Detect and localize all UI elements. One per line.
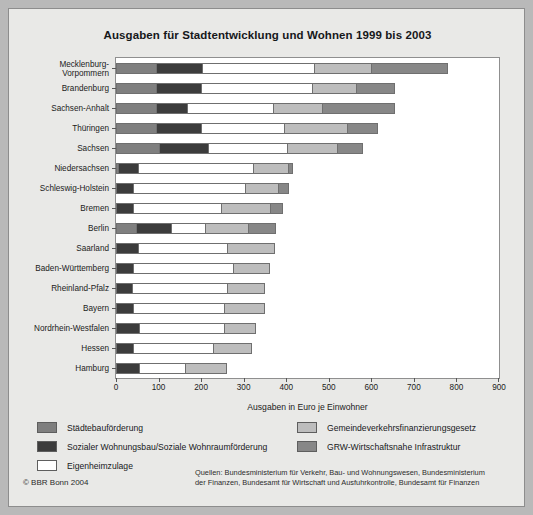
bar-segment[interactable]	[118, 163, 138, 174]
bar-segment[interactable]	[245, 183, 278, 194]
bar-row[interactable]: Brandenburg	[116, 83, 499, 94]
stacked-bar[interactable]	[116, 363, 227, 374]
bar-segment[interactable]	[132, 283, 227, 294]
bar-row[interactable]: Nordrhein-Westfalen	[116, 323, 499, 334]
bar-row[interactable]: Bayern	[116, 303, 499, 314]
stacked-bar[interactable]	[116, 123, 378, 134]
bar-segment[interactable]	[133, 263, 234, 274]
stacked-bar[interactable]	[116, 103, 395, 114]
bar-segment[interactable]	[116, 183, 133, 194]
bar-segment[interactable]	[116, 283, 132, 294]
bar-row[interactable]: Hessen	[116, 343, 499, 354]
legend-item[interactable]: Eigenheimzulage	[37, 460, 133, 471]
stacked-bar[interactable]	[116, 143, 363, 154]
bar-segment[interactable]	[133, 203, 220, 214]
bar-segment[interactable]	[116, 243, 138, 254]
bar-segment[interactable]	[156, 103, 187, 114]
bar-segment[interactable]	[116, 363, 139, 374]
bar-segment[interactable]	[337, 143, 363, 154]
bar-segment[interactable]	[139, 323, 224, 334]
bar-row[interactable]: Bremen	[116, 203, 499, 214]
bar-row[interactable]: Niedersachsen	[116, 163, 499, 174]
bar-segment[interactable]	[156, 63, 202, 74]
bar-segment[interactable]	[347, 123, 377, 134]
bar-segment[interactable]	[116, 203, 133, 214]
bar-segment[interactable]	[116, 143, 159, 154]
stacked-bar[interactable]	[116, 323, 256, 334]
bar-segment[interactable]	[233, 263, 270, 274]
bar-segment[interactable]	[133, 303, 224, 314]
bar-segment[interactable]	[371, 63, 448, 74]
bar-segment[interactable]	[156, 83, 201, 94]
bar-segment[interactable]	[116, 63, 156, 74]
stacked-bar[interactable]	[116, 203, 283, 214]
bar-row[interactable]: Thüringen	[116, 123, 499, 134]
bar-segment[interactable]	[205, 223, 248, 234]
bar-row[interactable]: Rheinland-Pfalz	[116, 283, 499, 294]
bar-segment[interactable]	[312, 83, 356, 94]
bar-row[interactable]: Berlin	[116, 223, 499, 234]
stacked-bar[interactable]	[116, 223, 276, 234]
bar-segment[interactable]	[284, 123, 347, 134]
legend-item[interactable]: Städtebauförderung	[37, 422, 143, 433]
bar-segment[interactable]	[224, 303, 264, 314]
bar-row[interactable]: Baden-Württemberg	[116, 263, 499, 274]
bar-segment[interactable]	[322, 103, 395, 114]
legend-item[interactable]: GRW-Wirtschaftsnahe Infrastruktur	[297, 441, 460, 452]
bar-segment[interactable]	[273, 103, 321, 114]
stacked-bar[interactable]	[116, 263, 270, 274]
bar-segment[interactable]	[138, 163, 253, 174]
bar-segment[interactable]	[116, 83, 156, 94]
bar-segment[interactable]	[213, 343, 252, 354]
bar-segment[interactable]	[356, 83, 395, 94]
bar-row[interactable]: Sachsen	[116, 143, 499, 154]
bar-segment[interactable]	[133, 183, 244, 194]
bar-segment[interactable]	[116, 323, 139, 334]
bar-segment[interactable]	[185, 363, 228, 374]
stacked-bar[interactable]	[116, 343, 252, 354]
stacked-bar[interactable]	[116, 243, 275, 254]
stacked-bar[interactable]	[116, 163, 293, 174]
stacked-bar[interactable]	[116, 63, 448, 74]
bar-segment[interactable]	[248, 223, 276, 234]
bar-segment[interactable]	[221, 203, 271, 214]
stacked-bar[interactable]	[116, 303, 265, 314]
bar-segment[interactable]	[116, 123, 156, 134]
bar-row[interactable]: Saarland	[116, 243, 499, 254]
bar-segment[interactable]	[270, 203, 283, 214]
bar-segment[interactable]	[171, 223, 205, 234]
bar-segment[interactable]	[156, 123, 201, 134]
bar-segment[interactable]	[201, 83, 312, 94]
bar-segment[interactable]	[208, 143, 287, 154]
bar-segment[interactable]	[202, 63, 314, 74]
bar-segment[interactable]	[116, 103, 156, 114]
bar-segment[interactable]	[253, 163, 288, 174]
bar-segment[interactable]	[136, 223, 171, 234]
bar-segment[interactable]	[139, 363, 185, 374]
bar-segment[interactable]	[224, 323, 256, 334]
stacked-bar[interactable]	[116, 183, 289, 194]
bar-segment[interactable]	[227, 283, 265, 294]
bar-segment[interactable]	[314, 63, 371, 74]
bar-segment[interactable]	[138, 243, 227, 254]
bar-segment[interactable]	[159, 143, 209, 154]
bar-segment[interactable]	[288, 163, 293, 174]
legend-item[interactable]: Gemeindeverkehrsfinanzierungsgesetz	[297, 422, 476, 433]
bar-segment[interactable]	[187, 103, 273, 114]
stacked-bar[interactable]	[116, 83, 395, 94]
bar-segment[interactable]	[116, 343, 133, 354]
bar-segment[interactable]	[133, 343, 213, 354]
bar-segment[interactable]	[116, 223, 136, 234]
bar-segment[interactable]	[116, 303, 133, 314]
bar-row[interactable]: Sachsen-Anhalt	[116, 103, 499, 114]
bar-segment[interactable]	[201, 123, 284, 134]
legend-item[interactable]: Sozialer Wohnungsbau/Soziale Wohnraumför…	[37, 441, 267, 452]
bar-segment[interactable]	[227, 243, 275, 254]
stacked-bar[interactable]	[116, 283, 265, 294]
bar-row[interactable]: Mecklenburg-Vorpommern	[116, 63, 499, 74]
bar-segment[interactable]	[278, 183, 289, 194]
bar-row[interactable]: Schleswig-Holstein	[116, 183, 499, 194]
bar-row[interactable]: Hamburg	[116, 363, 499, 374]
bar-segment[interactable]	[116, 263, 133, 274]
bar-segment[interactable]	[287, 143, 337, 154]
